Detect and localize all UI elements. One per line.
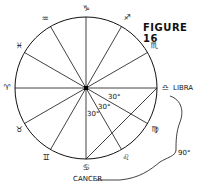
leo-icon: ♌ — [122, 154, 129, 162]
virgo-icon: ♍ — [151, 126, 158, 134]
pisces-icon: ♓ — [15, 42, 22, 50]
libra-icon: ♎ — [161, 84, 168, 92]
cancer-label: CANCER — [73, 176, 102, 183]
sagittarius-icon: ♐ — [123, 14, 130, 22]
angle-30-label-b: 30° — [98, 104, 110, 111]
cancer-icon: ♋ — [82, 164, 89, 172]
angle-30-label-c: 30° — [87, 111, 99, 118]
angle-90-label: 90° — [178, 150, 190, 157]
scorpio-icon: ♏ — [150, 42, 157, 50]
aries-icon: ♈ — [3, 84, 10, 92]
taurus-icon: ♉ — [15, 126, 22, 134]
capricorn-icon: ♑ — [82, 5, 89, 13]
gemini-icon: ♊ — [42, 154, 49, 162]
aquarius-icon: ♒ — [41, 15, 48, 23]
figure-16-diagram: FIGURE 16 ♑ ♐ ♏ ♎ ♍ ♌ ♋ ♊ ♉ ♈ ♓ ♒ LIBRA … — [0, 0, 199, 190]
libra-label: LIBRA — [173, 85, 193, 92]
angle-30-label-a: 30° — [108, 94, 120, 101]
